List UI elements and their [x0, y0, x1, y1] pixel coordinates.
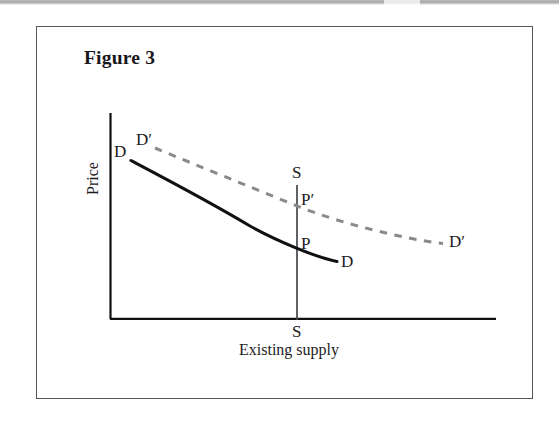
curve-label-demand-shift-left: D′	[136, 130, 152, 150]
curve-label-demand-shift-right: D′	[449, 232, 465, 252]
curve-label-demand-right: D	[341, 252, 353, 272]
point-label-price: P	[301, 234, 310, 254]
point-label-price-shift: P′	[301, 190, 314, 210]
figure-page: Figure 3 Price Existing supply D D′ D D′…	[0, 0, 559, 427]
curve-label-supply-bottom: S	[292, 322, 301, 342]
y-axis-label-price: Price	[84, 162, 102, 195]
curve-label-supply-top: S	[292, 163, 301, 183]
curve-label-demand-left: D	[114, 142, 126, 162]
x-axis-caption-existing-supply: Existing supply	[239, 341, 339, 359]
supply-demand-plot	[0, 0, 559, 427]
